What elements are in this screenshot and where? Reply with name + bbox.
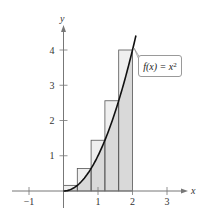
chart-canvas: x y −11231234 [0, 0, 204, 216]
y-tick-label: 1 [50, 150, 55, 161]
x-tick-label: 2 [130, 196, 135, 207]
y-axis-arrow-icon [61, 25, 66, 32]
x-axis-label: x [190, 185, 196, 196]
x-tick-label: 1 [96, 196, 101, 207]
y-axis-label: y [59, 13, 65, 24]
function-label-text: f(x) = x [143, 61, 173, 72]
function-label-exponent: 2 [173, 61, 177, 69]
function-label: f(x) = x2 [138, 55, 182, 77]
x-tick-label: −1 [24, 196, 35, 207]
y-tick-label: 2 [50, 115, 55, 126]
x-axis-arrow-icon [181, 189, 188, 194]
y-tick-label: 3 [50, 80, 55, 91]
x-tick-label: 3 [165, 196, 170, 207]
y-tick-label: 4 [50, 45, 55, 56]
